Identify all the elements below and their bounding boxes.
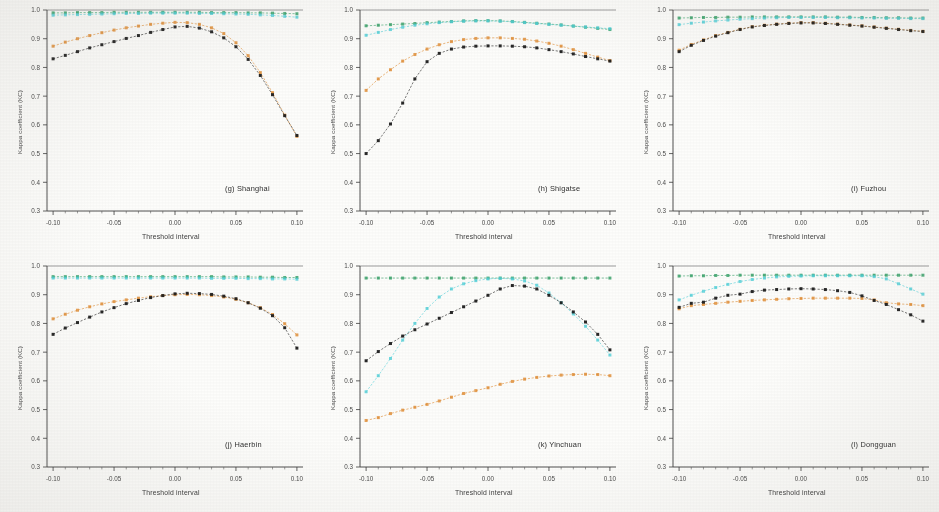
- x-axis-label: Threshold interval: [768, 233, 826, 240]
- y-tick-label: 1.0: [344, 262, 353, 269]
- y-tick-label: 0.3: [657, 463, 666, 470]
- y-axis-label: Kappa coefficient (KC): [642, 90, 649, 154]
- y-axis-label: Kappa coefficient (KC): [16, 90, 23, 154]
- x-axis-label: Threshold interval: [455, 489, 513, 496]
- panel-title: (i) Fuzhou: [851, 184, 886, 193]
- x-tick-label: 0.00: [482, 475, 495, 482]
- y-tick-label: 0.8: [657, 320, 666, 327]
- plot-area: 0.30.40.50.60.70.80.91.0-0.10-0.050.000.…: [626, 256, 939, 512]
- chart-panel-hshigatse: 0.30.40.50.60.70.80.91.0-0.10-0.050.000.…: [313, 0, 626, 256]
- y-tick-label: 0.6: [344, 377, 353, 384]
- x-tick-label: 0.05: [543, 219, 556, 226]
- y-tick-label: 1.0: [657, 262, 666, 269]
- x-axis-label: Threshold interval: [142, 233, 200, 240]
- y-tick-label: 0.7: [344, 93, 353, 100]
- y-tick-label: 1.0: [31, 262, 40, 269]
- x-tick-label: 0.00: [795, 219, 808, 226]
- y-tick-label: 0.8: [31, 320, 40, 327]
- x-tick-label: 0.00: [482, 219, 495, 226]
- y-tick-label: 0.5: [31, 150, 40, 157]
- series-black: [678, 21, 925, 53]
- panel-title: (g) Shanghai: [225, 184, 270, 193]
- y-axis-label: Kappa coefficient (KC): [329, 90, 336, 154]
- chart-panel-jhaerbin: 0.30.40.50.60.70.80.91.0-0.10-0.050.000.…: [0, 256, 313, 512]
- series-cyan: [365, 19, 612, 36]
- plot-area: 0.30.40.50.60.70.80.91.0-0.10-0.050.000.…: [313, 256, 626, 512]
- y-tick-label: 1.0: [657, 6, 666, 13]
- y-tick-label: 1.0: [31, 6, 40, 13]
- x-tick-label: 0.05: [230, 219, 243, 226]
- plot-area: 0.30.40.50.60.70.80.91.0-0.10-0.050.000.…: [626, 0, 939, 256]
- series-black: [52, 25, 299, 137]
- y-axis-label: Kappa coefficient (KC): [329, 346, 336, 410]
- y-tick-label: 0.4: [657, 179, 666, 186]
- x-tick-label: -0.10: [672, 475, 687, 482]
- chart-panel-ldongguan: 0.30.40.50.60.70.80.91.0-0.10-0.050.000.…: [626, 256, 939, 512]
- series-black: [678, 287, 925, 322]
- series-orange: [365, 373, 612, 422]
- panel-title: (k) Yinchuan: [538, 440, 581, 449]
- y-tick-label: 0.7: [657, 349, 666, 356]
- series-cyan: [52, 277, 299, 281]
- x-tick-label: 0.10: [917, 475, 930, 482]
- x-tick-label: 0.10: [604, 219, 617, 226]
- y-tick-label: 0.6: [657, 377, 666, 384]
- x-tick-label: 0.10: [291, 219, 304, 226]
- y-tick-label: 0.7: [657, 93, 666, 100]
- y-tick-label: 0.7: [31, 93, 40, 100]
- series-black: [365, 284, 612, 362]
- series-orange: [52, 21, 299, 138]
- x-tick-label: -0.05: [420, 219, 435, 226]
- y-tick-label: 0.9: [31, 291, 40, 298]
- y-tick-label: 0.6: [31, 377, 40, 384]
- plot-area: 0.30.40.50.60.70.80.91.0-0.10-0.050.000.…: [0, 0, 313, 256]
- x-tick-label: 0.05: [856, 475, 869, 482]
- x-tick-label: -0.05: [733, 475, 748, 482]
- y-tick-label: 0.8: [344, 64, 353, 71]
- x-tick-label: 0.00: [169, 219, 182, 226]
- multi-panel-chart-figure: 0.30.40.50.60.70.80.91.0-0.10-0.050.000.…: [0, 0, 939, 512]
- y-tick-label: 0.5: [657, 150, 666, 157]
- y-tick-label: 0.4: [31, 435, 40, 442]
- y-tick-label: 0.8: [344, 320, 353, 327]
- y-tick-label: 0.5: [657, 406, 666, 413]
- y-tick-label: 0.9: [657, 35, 666, 42]
- x-tick-label: -0.10: [359, 475, 374, 482]
- y-tick-label: 0.5: [344, 150, 353, 157]
- series-black: [52, 292, 299, 350]
- y-tick-label: 0.6: [344, 121, 353, 128]
- x-axis-label: Threshold interval: [455, 233, 513, 240]
- y-tick-label: 0.3: [657, 207, 666, 214]
- y-axis-label: Kappa coefficient (KC): [642, 346, 649, 410]
- y-tick-label: 0.8: [31, 64, 40, 71]
- y-tick-label: 0.5: [31, 406, 40, 413]
- chart-panel-kyinchuan: 0.30.40.50.60.70.80.91.0-0.10-0.050.000.…: [313, 256, 626, 512]
- y-tick-label: 0.3: [344, 463, 353, 470]
- x-tick-label: 0.00: [795, 475, 808, 482]
- panel-title: (h) Shigatse: [538, 184, 580, 193]
- y-tick-label: 0.5: [344, 406, 353, 413]
- x-tick-label: -0.10: [359, 219, 374, 226]
- y-tick-label: 0.3: [31, 207, 40, 214]
- plot-area: 0.30.40.50.60.70.80.91.0-0.10-0.050.000.…: [313, 0, 626, 256]
- y-tick-label: 0.9: [31, 35, 40, 42]
- x-tick-label: 0.00: [169, 475, 182, 482]
- chart-panel-ifuzhou: 0.30.40.50.60.70.80.91.0-0.10-0.050.000.…: [626, 0, 939, 256]
- y-tick-label: 0.3: [344, 207, 353, 214]
- chart-panel-gshanghai: 0.30.40.50.60.70.80.91.0-0.10-0.050.000.…: [0, 0, 313, 256]
- x-tick-label: 0.10: [291, 475, 304, 482]
- y-tick-label: 0.6: [31, 121, 40, 128]
- y-tick-label: 0.4: [31, 179, 40, 186]
- x-tick-label: -0.10: [46, 475, 61, 482]
- plot-area: 0.30.40.50.60.70.80.91.0-0.10-0.050.000.…: [0, 256, 313, 512]
- y-tick-label: 0.8: [657, 64, 666, 71]
- x-tick-label: -0.05: [107, 219, 122, 226]
- x-tick-label: -0.10: [672, 219, 687, 226]
- y-tick-label: 0.9: [657, 291, 666, 298]
- x-axis-label: Threshold interval: [768, 489, 826, 496]
- x-tick-label: -0.05: [420, 475, 435, 482]
- x-tick-label: -0.05: [733, 219, 748, 226]
- y-tick-label: 0.6: [657, 121, 666, 128]
- x-tick-label: 0.10: [917, 219, 930, 226]
- y-tick-label: 0.4: [344, 179, 353, 186]
